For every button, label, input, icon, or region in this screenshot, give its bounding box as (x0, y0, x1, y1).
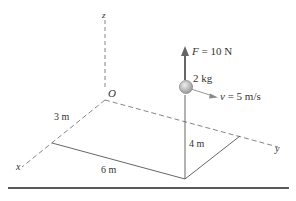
footprint-line-x-to-base (52, 143, 185, 179)
mass-label: 2 kg (193, 72, 213, 84)
velocity-label: v = 5 m/s (220, 90, 261, 102)
velocity-arrowhead-icon (209, 94, 218, 99)
z-axis-label: z (101, 10, 106, 20)
y-axis-label: y (274, 143, 280, 154)
force-arrowhead-icon (181, 46, 189, 56)
y-offset-label: 6 m (101, 164, 117, 175)
force-value: = 10 N (199, 45, 232, 57)
force-label: F = 10 N (191, 45, 232, 57)
origin-label: O (108, 87, 116, 99)
x-axis-label: x (15, 161, 21, 172)
height-label: 4 m (189, 138, 205, 149)
x-offset-label: 3 m (54, 111, 70, 122)
particle-ball (180, 81, 193, 94)
velocity-value: = 5 m/s (225, 90, 261, 102)
particle-3d-diagram: z O x y 3 m 6 m 4 m F = 10 N 2 kg v = 5 … (0, 0, 296, 201)
velocity-arrow (191, 89, 213, 96)
